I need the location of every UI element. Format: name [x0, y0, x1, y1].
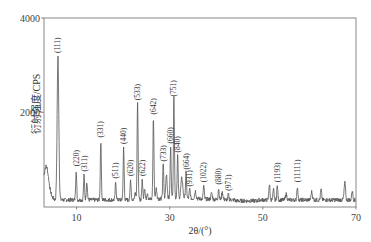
peak-label: (622) [138, 159, 147, 176]
peak-label: (733) [159, 145, 168, 162]
x-tick-label: 70 [351, 212, 361, 223]
peak-label: (11111) [293, 159, 302, 182]
x-tick-label: 50 [258, 212, 268, 223]
x-tick-label: 30 [165, 212, 175, 223]
peak-label: (440) [119, 127, 128, 144]
peak-label: (533) [133, 83, 142, 100]
peak-label: (840) [173, 136, 182, 153]
peak-label: (1022) [199, 162, 208, 182]
peak-label: (880) [214, 168, 223, 185]
peak-label: (620) [126, 159, 135, 176]
peak-label: (971) [224, 174, 233, 191]
x-axis-ticks: 10305070 [72, 207, 361, 223]
peak-label: (931) [185, 170, 194, 187]
peak-label: (511) [111, 162, 120, 178]
peak-label: (664) [182, 153, 191, 170]
peak-label: (642) [149, 98, 158, 115]
peak-label: (751) [169, 80, 178, 97]
peak-label: (1193) [273, 162, 282, 182]
peak-label: (111) [53, 37, 62, 53]
x-axis-title: 2θ/(°) [188, 225, 211, 237]
peak-label: (311) [80, 155, 89, 171]
y-tick-label: 4000 [20, 13, 40, 24]
peak-label: (331) [96, 121, 105, 138]
peak-labels: (111)(220)(311)(331)(511)(440)(620)(533)… [53, 37, 301, 191]
xrd-chart: 20004000 10305070 (111)(220)(311)(331)(5… [0, 0, 371, 242]
y-axis-title: 衍射强度/CPS [28, 74, 43, 135]
x-tick-label: 10 [72, 212, 82, 223]
